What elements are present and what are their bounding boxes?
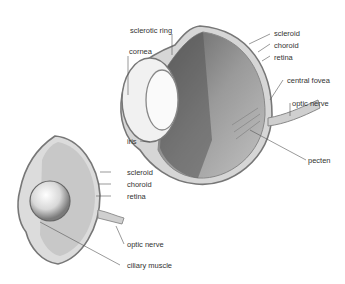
label-choroid-small: choroid xyxy=(127,180,152,189)
label-choroid-large: choroid xyxy=(274,41,299,50)
label-central-fovea: central fovea xyxy=(287,76,330,85)
small-eye xyxy=(18,136,124,264)
label-cornea: cornea xyxy=(129,47,152,56)
label-pecten: pecten xyxy=(308,156,331,165)
label-sclerotic-ring: sclerotic ring xyxy=(130,26,172,35)
label-scleroid-large: scleroid xyxy=(274,29,300,38)
label-retina-large: retina xyxy=(274,53,293,62)
label-optic-nerve-large: optic nerve xyxy=(292,99,329,108)
label-ciliary-muscle: ciliary muscle xyxy=(127,261,172,270)
label-retina-small: retina xyxy=(127,192,146,201)
label-iris: iris xyxy=(127,137,137,146)
label-optic-nerve-small: optic nerve xyxy=(127,240,164,249)
label-scleroid-small: scleroid xyxy=(127,168,153,177)
